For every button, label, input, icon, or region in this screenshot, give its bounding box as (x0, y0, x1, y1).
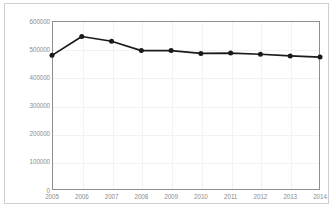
x-tick-label: 2014 (300, 193, 334, 200)
y-tick-label: 600000 (6, 18, 50, 25)
data-point-marker (79, 34, 84, 39)
y-axis: 0100000200000300000400000500000600000 (5, 4, 50, 205)
y-tick-label: 300000 (6, 102, 50, 109)
data-point-marker (318, 55, 323, 60)
y-tick-label: 100000 (6, 158, 50, 165)
data-point-marker (258, 52, 263, 57)
line-series-layer (52, 21, 320, 190)
y-tick-label: 200000 (6, 130, 50, 137)
y-tick-label: 400000 (6, 74, 50, 81)
y-tick-label: 500000 (6, 46, 50, 53)
series-line (52, 36, 320, 57)
figure-frame: 0100000200000300000400000500000600000 20… (4, 3, 329, 204)
data-point-marker (228, 51, 233, 56)
figure-caption (5, 210, 334, 213)
data-point-marker (169, 48, 174, 53)
data-point-marker (109, 39, 114, 44)
data-point-marker (139, 48, 144, 53)
data-point-marker (50, 53, 55, 58)
data-point-marker (198, 51, 203, 56)
data-point-marker (288, 53, 293, 58)
